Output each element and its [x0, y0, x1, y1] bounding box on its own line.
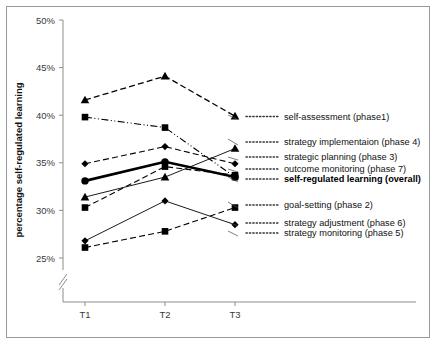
- data-point: [161, 72, 170, 80]
- series-2: [82, 114, 239, 181]
- legend-label: strategy implementaion (phase 4): [284, 137, 420, 147]
- x-tick-label-t1: T1: [79, 309, 90, 320]
- legend-label: strategy monitoring (phase 5): [284, 228, 404, 238]
- x-tick-label-t3: T3: [229, 309, 240, 320]
- data-point: [161, 197, 168, 204]
- chart-figure: 50% 45% 40% 35% 30% 25% T1 T2 T3 percent…: [0, 0, 436, 344]
- x-axis: T1 T2 T3: [63, 302, 416, 320]
- legend-swatch-layer: [246, 117, 278, 234]
- series-layer: [81, 72, 240, 251]
- data-point: [82, 114, 89, 121]
- series-8: [81, 197, 238, 244]
- data-point: [162, 228, 169, 235]
- series-line: [85, 76, 235, 116]
- series-line: [85, 201, 235, 241]
- series-line: [85, 117, 235, 177]
- series-line: [85, 208, 235, 248]
- data-point: [81, 160, 88, 167]
- line-chart-plot: 50% 45% 40% 35% 30% 25% T1 T2 T3 percent…: [0, 0, 436, 344]
- data-point: [81, 237, 88, 244]
- data-point: [162, 124, 169, 131]
- y-tick-label-40: 40%: [36, 110, 56, 121]
- legend-label: self-assessment (phase1): [284, 112, 389, 122]
- y-tick-label-35: 35%: [36, 157, 56, 168]
- y-axis: 50% 45% 40% 35% 30% 25%: [36, 15, 63, 271]
- y-tick-label-25: 25%: [36, 253, 56, 264]
- series-6: [82, 204, 239, 251]
- y-tick-label-45: 45%: [36, 62, 56, 73]
- legend-label: strategic planning (phase 3): [284, 152, 397, 162]
- x-tick-label-t2: T2: [159, 309, 170, 320]
- series-1: [81, 72, 240, 120]
- data-point: [161, 158, 168, 165]
- data-point: [231, 160, 238, 167]
- legend-label: strategy adjustment (phase 6): [284, 218, 406, 228]
- data-point: [161, 143, 168, 150]
- legend-label-layer: self-assessment (phase1)strategy impleme…: [284, 112, 421, 239]
- legend-label: self-regulated learning (overall): [284, 174, 421, 184]
- data-point: [81, 177, 88, 184]
- data-point: [82, 244, 89, 251]
- data-point: [231, 144, 240, 152]
- axis-break-icon: [59, 274, 67, 290]
- data-point: [161, 173, 170, 181]
- data-point: [231, 173, 238, 180]
- legend-label: goal-setting (phase 2): [284, 200, 373, 210]
- y-axis-title: percentage self-regulated learning: [13, 82, 24, 237]
- legend-label: outcome monitoring (phase 7): [284, 164, 406, 174]
- series-5: [81, 158, 238, 184]
- y-tick-label-30: 30%: [36, 205, 56, 216]
- y-tick-label-50: 50%: [36, 15, 56, 26]
- data-point: [82, 204, 89, 211]
